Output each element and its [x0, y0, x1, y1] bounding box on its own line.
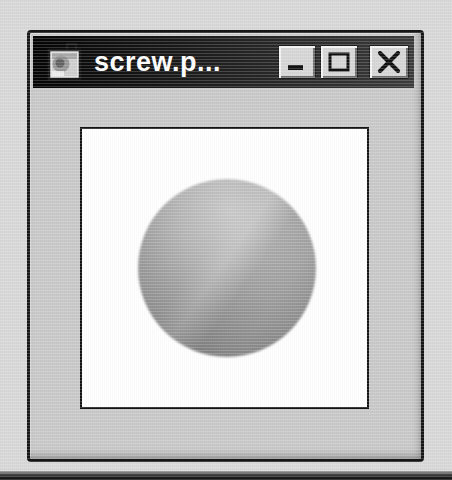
maximize-button[interactable]: [320, 45, 358, 79]
bottom-edge-band: [0, 471, 452, 480]
close-icon: [377, 51, 401, 73]
window-controls: [278, 45, 409, 79]
sphere-image: [138, 179, 316, 357]
image-window: screw.p...: [27, 30, 424, 462]
window-title: screw.p...: [94, 47, 278, 78]
maximize-icon: [327, 51, 351, 73]
minimize-button[interactable]: [278, 45, 316, 79]
close-button[interactable]: [369, 45, 409, 79]
image-canvas: [80, 127, 369, 409]
image-file-icon[interactable]: [45, 41, 85, 83]
minimize-icon: [286, 52, 308, 72]
titlebar[interactable]: screw.p...: [33, 36, 414, 88]
